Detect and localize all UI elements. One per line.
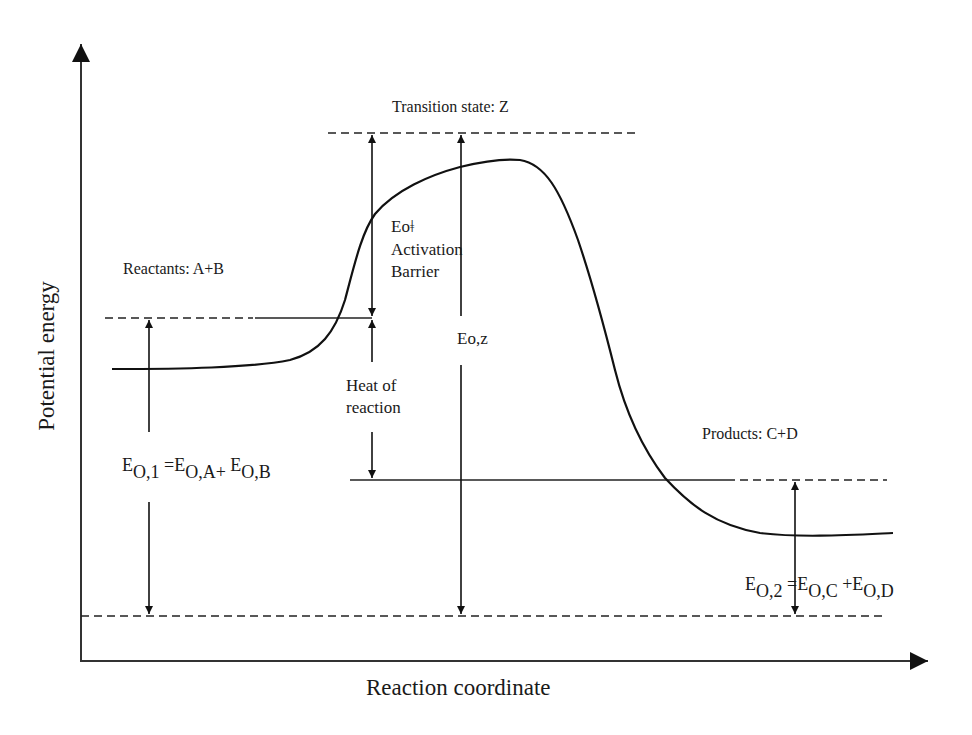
reactant-energy-equation: EO,1 =EO,A+ EO,B <box>122 455 271 476</box>
eq1-t1-sub: O,A <box>185 462 216 482</box>
eq1-plus: + <box>216 462 231 482</box>
eq2-t1-sub: O,C <box>808 581 838 601</box>
reactants-label: Reactants: A+B <box>123 260 224 278</box>
eq2-equals: = <box>783 574 798 594</box>
eq2-t2-main: E <box>852 574 863 594</box>
eq1-t2-main: E <box>230 455 241 475</box>
eoz-label: Eo,z <box>457 329 488 349</box>
x-axis-label: Reaction coordinate <box>366 675 551 701</box>
eq1-lhs-main: E <box>122 455 133 475</box>
activation-energy-symbol: Eoǂ <box>391 217 414 237</box>
product-energy-equation: EO,2 =EO,C +EO,D <box>745 574 894 595</box>
eq2-t1-main: E <box>797 574 808 594</box>
transition-state-label: Transition state: Z <box>392 98 509 116</box>
energy-diagram: Potential energy Reaction coordinate Tra… <box>0 0 972 735</box>
eq2-plus: + <box>838 574 853 594</box>
eq1-lhs-sub: O,1 <box>133 462 160 482</box>
eq1-t2-sub: O,B <box>241 462 271 482</box>
y-axis-label: Potential energy <box>34 281 60 431</box>
eq2-lhs-main: E <box>745 574 756 594</box>
heat-of-reaction-label-line2: reaction <box>346 398 401 418</box>
heat-of-reaction-label-line1: Heat of <box>346 376 397 396</box>
activation-label-line1: Activation <box>391 240 463 260</box>
eq1-t1-main: E <box>174 455 185 475</box>
eq2-lhs-sub: O,2 <box>756 581 783 601</box>
eq2-t2-sub: O,D <box>863 581 894 601</box>
eq1-equals: = <box>160 455 175 475</box>
activation-label-line2: Barrier <box>391 262 439 282</box>
products-label: Products: C+D <box>702 425 798 443</box>
